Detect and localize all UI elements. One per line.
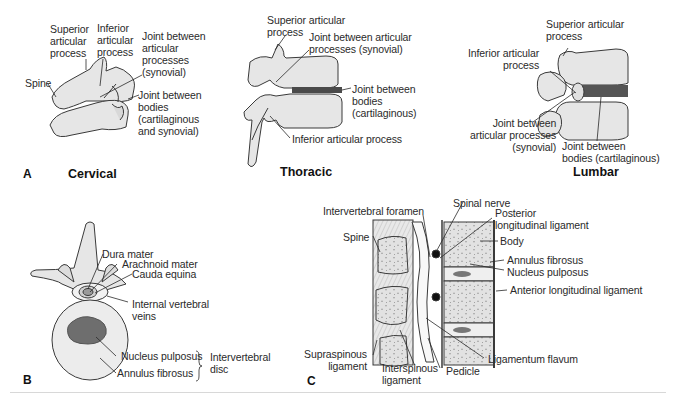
label-intervertebral-disc: Intervertebraldisc [210, 351, 270, 375]
label-lumbar-inferior-articular-process: Inferior articularprocess [468, 47, 539, 71]
label-cauda-equina: Cauda equina [132, 268, 196, 280]
sagittal-column-art [373, 220, 494, 368]
label-c-annulus-fibrosus: Annulus fibrosus [507, 254, 583, 266]
title-lumbar: Lumbar [573, 165, 619, 179]
label-thoracic-joint-articular: Joint between articularprocesses (synovi… [309, 31, 412, 55]
vertebral-column-illustration [0, 0, 676, 408]
label-b-nucleus-pulposus: Nucleus pulposus [121, 350, 202, 362]
bottom-divider [10, 392, 666, 393]
label-anterior-longitudinal-ligament: Anterior longitudinal ligament [510, 284, 642, 296]
panel-letter-b: B [23, 373, 32, 387]
label-cervical-joint-bodies: Joint betweenbodies(cartilaginousand syn… [138, 89, 202, 137]
title-thoracic: Thoracic [280, 165, 332, 179]
title-cervical: Cervical [68, 167, 117, 181]
label-c-nucleus-pulposus: Nucleus pulposus [507, 266, 588, 278]
label-supraspinous-ligament: Supraspinousligament [304, 348, 367, 372]
label-ligamentum-flavum: Ligamentum flavum [488, 353, 578, 365]
label-b-annulus-fibrosus: Annulus fibrosus [117, 367, 193, 379]
label-intervertebral-foramen: Intervertebral foramen [323, 205, 424, 217]
label-posterior-longitudinal-ligament: Posteriorlongitudinal ligament [495, 207, 589, 231]
label-cervical-spine: Spine [25, 77, 51, 89]
cervical-vertebrae-art [50, 57, 135, 137]
label-interspinous-ligament: Interspinousligament [382, 362, 438, 386]
label-cervical-inferior-articular-process: Inferiorarticularprocess [97, 22, 133, 58]
label-lumbar-joint-bodies: Joint betweenbodies (cartilaginous) [562, 140, 660, 164]
label-body: Body [500, 235, 524, 247]
label-lumbar-superior-articular-process: Superior articularprocess [546, 18, 624, 42]
label-thoracic-inferior-articular-process: Inferior articular process [292, 133, 402, 145]
axial-vertebra-art [31, 222, 128, 380]
panel-letter-c: C [307, 374, 316, 388]
thoracic-vertebra-art [244, 44, 342, 167]
label-internal-vertebral-veins: Internal vertebralveins [132, 298, 209, 322]
label-cervical-joint-articular: Joint betweenarticularprocesses(synovial… [142, 30, 206, 78]
panel-letter-a: A [23, 167, 32, 181]
label-thoracic-joint-bodies: Joint betweenbodies(cartilaginous) [352, 83, 416, 119]
label-c-spine: Spine [343, 231, 369, 243]
label-pedicle: Pedicle [446, 365, 480, 377]
label-lumbar-joint-articular: Joint betweenarticular processes(synovia… [470, 117, 556, 153]
label-cervical-superior-articular-process: Superiorarticularprocess [50, 23, 89, 59]
